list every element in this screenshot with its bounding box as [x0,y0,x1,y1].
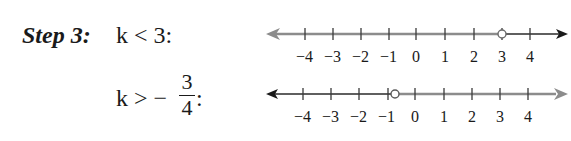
tick-label: 3 [498,48,506,66]
tick-label: 4 [526,48,534,66]
number-line-1 [266,28,568,40]
tick-label: −1 [378,108,395,126]
number-lines-graphic [0,0,571,141]
tick-label: −3 [322,108,339,126]
tick-label: 2 [470,48,478,66]
tick-label: −3 [324,48,341,66]
tick-label: 2 [468,108,476,126]
tick-label: −4 [294,108,311,126]
tick-label: 1 [440,108,448,126]
tick-label: 3 [496,108,504,126]
tick-label: 4 [524,108,532,126]
tick-label: −2 [352,48,369,66]
tick-label: −4 [296,48,313,66]
open-circle-icon [391,90,399,98]
tick-label: −2 [350,108,367,126]
open-circle-icon [498,30,506,38]
right-arrow-icon [554,88,568,100]
tick-label: 0 [411,108,419,126]
number-line-2 [266,88,568,100]
tick-label: 0 [412,48,420,66]
tick-label: −1 [380,48,397,66]
tick-label: 1 [441,48,449,66]
